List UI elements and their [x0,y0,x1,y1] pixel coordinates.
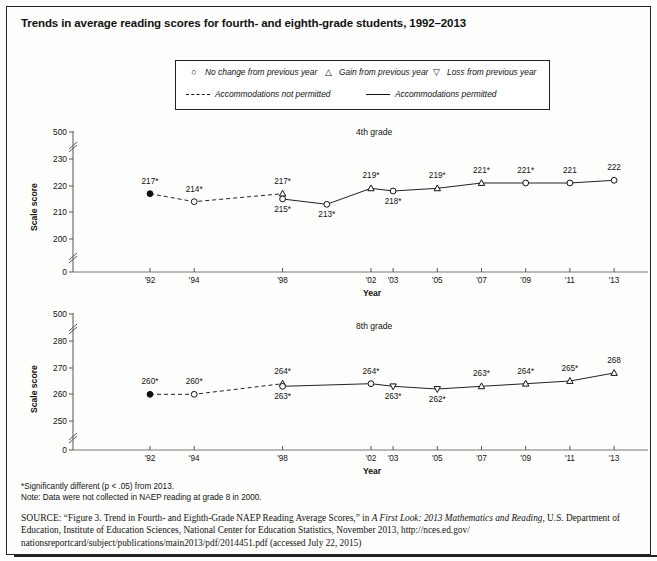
data-point-label: 221 [553,166,587,175]
legend-item-accom-permitted: Accommodations permitted [366,89,496,99]
data-point-marker-circle [280,196,286,202]
x-axis-tick-label: '07 [468,454,496,463]
data-point-label: 219* [420,171,454,180]
source-citation: SOURCE: “Figure 3. Trend in Fourth- and … [21,512,643,549]
figure-title: Trends in average reading scores for fou… [21,17,466,29]
legend-label: Gain from previous year [339,67,428,77]
data-point-marker-circle [324,201,330,207]
plot-area [7,117,652,292]
data-point-marker-circle [523,180,529,186]
x-axis-tick-label: '07 [468,276,496,285]
source-publication-title: A First Look: 2013 Mathematics and Readi… [372,513,545,523]
legend: ○ No change from previous year △ Gain fr… [175,60,550,110]
data-point-marker-circle [611,177,617,183]
y-axis-tick-label: 0 [27,445,67,455]
source-in: in [360,513,372,523]
data-point-label: 263* [376,392,410,401]
y-axis-tick-label: 230 [27,154,67,164]
x-axis-tick-label: '05 [423,276,451,285]
note-data-collection: Note: Data were not collected in NAEP re… [21,492,641,503]
data-point-label: 265* [553,364,587,373]
data-point-label: 263* [266,392,300,401]
x-axis-tick-label: '94 [180,276,208,285]
x-axis-tick-label: '94 [180,454,208,463]
data-point-label: 219* [354,171,388,180]
data-point-label: 215* [266,205,300,214]
x-axis-tick-label: '98 [269,276,297,285]
plot-area [7,299,652,474]
data-point-label: 221* [509,166,543,175]
legend-item-no-change: ○ No change from previous year [188,67,317,77]
legend-label: Accommodations not permitted [215,89,330,99]
data-point-marker-circle [368,381,374,387]
x-axis-tick-label: '92 [136,276,164,285]
data-point-label: 213* [310,210,344,219]
x-axis-tick-label: '11 [556,454,584,463]
panel-title: 8th grade [356,321,392,331]
y-axis-tick-label: 200 [27,234,67,244]
x-axis-tick-label: '03 [379,454,407,463]
data-point-marker-triangle-up [368,185,374,191]
panel-title: 4th grade [356,127,392,137]
series-line-not-permitted [150,194,283,202]
data-point-label: 221* [465,166,499,175]
dashed-line-icon [186,94,210,95]
x-axis-tick-label: '11 [556,276,584,285]
x-axis-title: Year [363,288,381,298]
legend-item-accom-not-permitted: Accommodations not permitted [186,89,330,99]
x-axis-title: Year [363,466,381,476]
bottom-divider [14,555,657,557]
source-quote: “Figure 3. Trend in Fourth- and Eighth-G… [64,513,360,523]
solid-line-icon [366,94,390,95]
source-lead: SOURCE: [21,512,62,523]
data-point-marker-circle [191,199,197,205]
y-axis-title: Scale score [29,365,39,413]
chart-grade8: 5002802702602500Scale score'92'94'98'02'… [7,299,652,474]
circle-icon: ○ [188,68,200,77]
legend-line-row: Accommodations not permitted Accommodati… [176,89,549,109]
x-axis-tick-label: '03 [379,276,407,285]
data-point-label: 222 [597,163,631,172]
data-point-label: 214* [177,185,211,194]
y-axis-tick-label: 250 [27,416,67,426]
data-point-marker-filled-circle [147,191,153,197]
data-point-marker-triangle-down [434,387,440,393]
data-point-label: 264* [354,367,388,376]
data-point-marker-circle [280,383,286,389]
triangle-up-icon: △ [322,68,334,77]
triangle-down-icon: ▽ [430,68,442,77]
data-point-label: 260* [177,377,211,386]
legend-item-gain: △ Gain from previous year [322,67,428,77]
series-line-permitted [283,180,614,204]
x-axis-tick-label: '09 [512,454,540,463]
data-point-label: 263* [465,369,499,378]
data-point-label: 217* [266,177,300,186]
data-point-label: 268 [597,356,631,365]
figure-frame: Trends in average reading scores for fou… [6,6,651,555]
data-point-marker-circle [191,391,197,397]
note-significance: *Significantly different (p < .05) from … [21,481,641,492]
data-point-label: 260* [133,377,167,386]
x-axis-tick-label: '13 [600,454,628,463]
legend-label: Accommodations permitted [395,89,496,99]
x-axis-tick-label: '13 [600,276,628,285]
legend-label: No change from previous year [205,67,317,77]
legend-marker-row: ○ No change from previous year △ Gain fr… [176,67,549,87]
legend-item-loss: ▽ Loss from previous year [430,67,536,77]
data-point-marker-circle [567,180,573,186]
data-point-label: 217* [133,177,167,186]
data-point-marker-filled-circle [147,391,153,397]
data-point-label: 264* [266,367,300,376]
data-point-label: 262* [420,395,454,404]
x-axis-tick-label: '92 [136,454,164,463]
series-line-permitted [283,373,614,389]
legend-label: Loss from previous year [447,67,536,77]
x-axis-tick-label: '05 [423,454,451,463]
figure-notes: *Significantly different (p < .05) from … [21,481,641,503]
data-point-marker-triangle-up [279,190,285,196]
data-point-label: 264* [509,367,543,376]
data-point-marker-circle [390,188,396,194]
y-axis-title: Scale score [29,183,39,231]
x-axis-tick-label: '09 [512,276,540,285]
y-axis-tick-label: 500 [27,127,67,137]
